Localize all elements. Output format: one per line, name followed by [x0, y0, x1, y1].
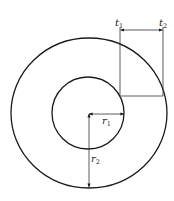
inner-circle	[52, 77, 124, 149]
diagram-canvas: t1 t2 r1 r2	[0, 0, 174, 201]
t2-label: t2	[159, 17, 167, 30]
t1-label: t1	[115, 17, 123, 30]
r1-label: r1	[102, 115, 111, 128]
r2-label: r2	[91, 153, 100, 166]
